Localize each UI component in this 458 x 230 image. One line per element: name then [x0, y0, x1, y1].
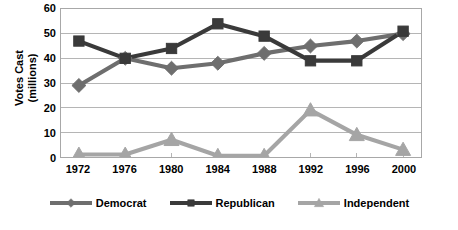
data-point-independent-1980: [164, 132, 179, 145]
x-axis-tick-label-1980: 1980: [146, 163, 196, 176]
legend-swatch-square-icon: [169, 196, 213, 210]
x-axis-tick-label-1992: 1992: [286, 163, 336, 176]
x-axis-tick-label-1984: 1984: [193, 163, 243, 176]
votes-cast-line-chart: Votes Cast (millions) 0102030405060 1972…: [0, 0, 458, 230]
y-axis-tick-label: 60: [24, 3, 56, 14]
x-axis-tick-label-2000: 2000: [379, 163, 429, 176]
x-axis-tick-label-1988: 1988: [239, 163, 289, 176]
legend-item-independent[interactable]: Independent: [297, 196, 409, 210]
data-point-republican-1984: [213, 19, 223, 29]
data-point-independent-1992: [303, 103, 318, 116]
data-point-republican-1976: [120, 53, 130, 63]
series-markers: [71, 19, 410, 157]
legend-label: Republican: [216, 197, 275, 210]
chart-legend: DemocratRepublicanIndependent: [0, 196, 458, 210]
data-point-republican-1972: [74, 36, 84, 46]
y-axis-tick-label: 20: [24, 103, 56, 114]
data-point-republican-2000: [398, 26, 408, 36]
data-point-republican-1988: [259, 31, 269, 41]
data-point-republican-1992: [305, 56, 315, 66]
y-axis-tick-label: 30: [24, 78, 56, 89]
y-axis-tick-label: 40: [24, 53, 56, 64]
plot-area: [60, 8, 422, 158]
data-point-independent-1972: [71, 147, 86, 157]
x-axis-tick-label-1972: 1972: [53, 163, 103, 176]
legend-label: Independent: [344, 197, 409, 210]
x-axis-tick-label-1996: 1996: [332, 163, 382, 176]
data-point-republican-1996: [352, 56, 362, 66]
data-point-democrat-1992: [303, 39, 317, 53]
y-axis-tick-label: 10: [24, 128, 56, 139]
data-point-democrat-1980: [165, 61, 179, 75]
y-axis-tick-label: 0: [24, 153, 56, 164]
plot-svg: [61, 9, 421, 157]
legend-item-democrat[interactable]: Democrat: [49, 196, 147, 210]
x-axis-tick-labels: 19721976198019841988199219962000: [60, 163, 422, 179]
legend-item-republican[interactable]: Republican: [169, 196, 275, 210]
y-axis-tick-label: 50: [24, 28, 56, 39]
legend-label: Democrat: [96, 197, 147, 210]
data-point-republican-1980: [166, 43, 176, 53]
legend-swatch-triangle-icon: [297, 196, 341, 210]
y-axis-tick-labels: 0102030405060: [24, 8, 56, 158]
legend-swatch-diamond-icon: [49, 196, 93, 210]
data-point-democrat-1996: [350, 34, 364, 48]
x-axis-tick-label-1976: 1976: [100, 163, 150, 176]
